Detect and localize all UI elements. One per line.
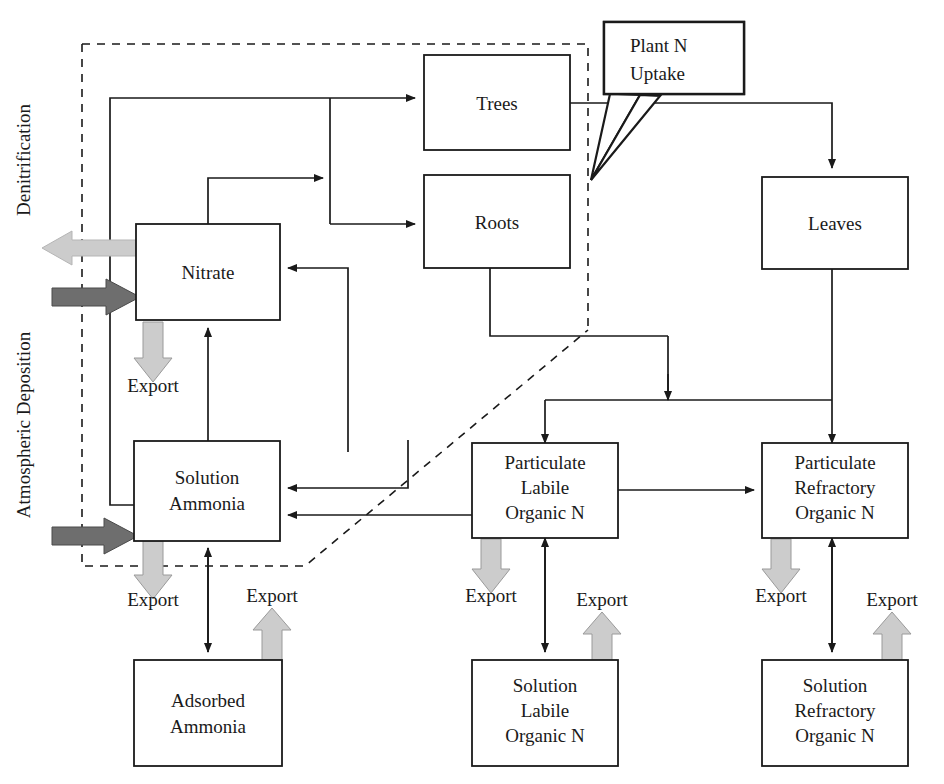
box-trees[interactable]: Trees (424, 55, 570, 150)
box-solution-refractory[interactable]: Solution Refractory Organic N (762, 660, 908, 766)
export-label-solution-labile: Export (576, 589, 628, 610)
export-arrow-solution-refractory (873, 612, 911, 662)
box-particulate-labile-label-3: Organic N (505, 502, 585, 523)
box-solution-ammonia-label-1: Solution (175, 467, 240, 488)
denitrification-arrow (42, 231, 136, 265)
box-particulate-labile[interactable]: Particulate Labile Organic N (472, 443, 618, 538)
box-particulate-refractory-label-1: Particulate (794, 452, 875, 473)
box-solution-refractory-label-2: Refractory (794, 700, 876, 721)
deposition-arrow-nitrate (52, 279, 140, 315)
box-particulate-labile-label-2: Labile (521, 477, 570, 498)
box-particulate-refractory[interactable]: Particulate Refractory Organic N (762, 443, 908, 538)
deposition-arrow-solution-ammonia (52, 518, 138, 554)
box-particulate-refractory-label-3: Organic N (795, 502, 875, 523)
label-atmospheric-deposition-text: Atmospheric Deposition (13, 331, 34, 518)
box-leaves-label: Leaves (808, 213, 862, 234)
export-label-nitrate: Export (127, 375, 179, 396)
callout-plant-n-uptake[interactable]: Plant N Uptake (591, 22, 744, 180)
box-solution-labile[interactable]: Solution Labile Organic N (472, 660, 618, 766)
export-arrow-solution-labile (583, 612, 621, 662)
box-solution-refractory-label-1: Solution (803, 675, 868, 696)
box-nitrate[interactable]: Nitrate (136, 224, 280, 320)
export-arrow-adsorbed-ammonia (253, 608, 291, 662)
callout-line-2: Uptake (630, 63, 685, 84)
label-denitrification-text: Denitrification (13, 104, 34, 216)
export-label-solution-refractory: Export (866, 589, 918, 610)
export-arrow-nitrate (134, 322, 172, 382)
box-solution-labile-label-1: Solution (513, 675, 578, 696)
box-adsorbed-ammonia[interactable]: Adsorbed Ammonia (134, 660, 282, 766)
box-roots[interactable]: Roots (424, 175, 570, 268)
box-roots-label: Roots (475, 212, 519, 233)
export-label-adsorbed-ammonia: Export (246, 585, 298, 606)
nitrogen-cycle-diagram: Nitrate Solution Ammonia Adsorbed Ammoni… (0, 0, 944, 784)
export-label-particulate-labile: Export (465, 585, 517, 606)
export-label-particulate-refractory: Export (755, 585, 807, 606)
box-nitrate-label: Nitrate (182, 262, 235, 283)
box-particulate-refractory-label-2: Refractory (794, 477, 876, 498)
label-denitrification: Denitrification (13, 104, 34, 216)
box-adsorbed-ammonia-label-2: Ammonia (170, 716, 247, 737)
box-adsorbed-ammonia-label-1: Adsorbed (171, 690, 245, 711)
box-trees-label: Trees (476, 93, 518, 114)
box-solution-ammonia-label-2: Ammonia (169, 493, 246, 514)
box-solution-ammonia[interactable]: Solution Ammonia (134, 441, 280, 541)
label-atmospheric-deposition: Atmospheric Deposition (13, 331, 34, 518)
box-particulate-labile-label-1: Particulate (504, 452, 585, 473)
box-solution-refractory-label-3: Organic N (795, 725, 875, 746)
box-solution-labile-label-3: Organic N (505, 725, 585, 746)
callout-line-1: Plant N (630, 35, 688, 56)
box-leaves[interactable]: Leaves (762, 177, 908, 269)
box-solution-labile-label-2: Labile (521, 700, 570, 721)
export-label-solution-ammonia: Export (127, 589, 179, 610)
